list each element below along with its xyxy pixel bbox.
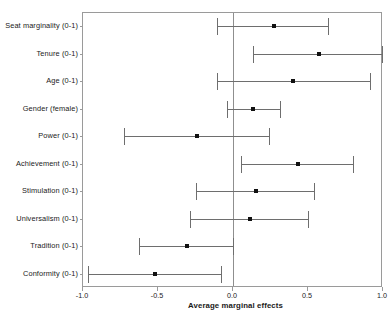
confidence-interval-upper-cap [221,266,222,283]
confidence-interval-upper-cap [233,238,234,255]
confidence-interval-upper-cap [328,18,329,35]
estimate-row [83,178,381,205]
y-axis-label-power-0-1: Power (0-1) [0,131,78,140]
confidence-interval-lower-cap [241,156,242,173]
y-axis-label-gender-female: Gender (female) [0,104,78,113]
y-axis-label-achievement-0-1: Achievement (0-1) [0,159,78,168]
estimate-row [83,123,381,150]
estimate-point [153,272,157,276]
estimate-row [83,68,381,95]
y-axis-label-conformity-0-1: Conformity (0-1) [0,269,78,278]
y-axis-label-universalism-0-1: Universalism (0-1) [0,214,78,223]
y-axis-tick [80,191,83,192]
confidence-interval-upper-cap [353,156,354,173]
estimate-point [251,107,255,111]
plot-inner [83,13,381,286]
chart-figure: Seat marginality (0-1)Tenure (0-1)Age (0… [0,0,391,315]
x-axis-tick-label: 1.0 [377,291,387,300]
confidence-interval-lower-cap [124,128,125,145]
y-axis-label-tradition-0-1: Tradition (0-1) [0,241,78,250]
confidence-interval-upper-cap [308,211,309,228]
confidence-interval-lower-cap [196,183,197,200]
confidence-interval-upper-cap [370,73,371,90]
x-axis-tick-label: -0.5 [151,291,163,300]
estimate-point [195,134,199,138]
y-axis-tick [80,219,83,220]
estimate-row [83,261,381,288]
estimate-point [317,52,321,56]
x-axis-title-text: Average marginal effects [188,301,283,310]
estimate-row [83,151,381,178]
confidence-interval-upper-cap [314,183,315,200]
estimate-row [83,41,381,68]
y-axis-tick [80,81,83,82]
estimate-point [272,24,276,28]
y-axis-tick [80,246,83,247]
estimate-row [83,96,381,123]
y-axis-label-tenure-0-1: Tenure (0-1) [0,49,78,58]
estimate-point [296,162,300,166]
y-axis-tick [80,109,83,110]
confidence-interval-upper-cap [382,46,383,63]
estimate-row [83,206,381,233]
y-axis-tick [80,274,83,275]
confidence-interval-lower-cap [217,73,218,90]
confidence-interval-lower-cap [227,101,228,118]
confidence-interval-lower-cap [217,18,218,35]
confidence-interval-lower-cap [253,46,254,63]
x-axis-title: Average marginal effects [0,301,391,310]
plot-area [82,12,382,287]
confidence-interval-lower-cap [190,211,191,228]
confidence-interval-lower-cap [88,266,89,283]
y-axis-label-seat-marginality-0-1: Seat marginality (0-1) [0,21,78,30]
x-axis-tick-label: 0.0 [227,291,237,300]
estimate-row [83,233,381,260]
y-axis-tick [80,26,83,27]
y-axis-tick [80,54,83,55]
y-axis-tick [80,136,83,137]
y-axis-label-age-0-1: Age (0-1) [0,76,78,85]
estimate-point [291,79,295,83]
x-axis-tick-label: -1.0 [76,291,88,300]
estimate-point [185,244,189,248]
confidence-interval-upper-cap [269,128,270,145]
estimate-row [83,13,381,40]
y-axis-label-stimulation-0-1: Stimulation (0-1) [0,186,78,195]
y-axis-tick [80,164,83,165]
estimate-point [248,217,252,221]
confidence-interval-lower-cap [139,238,140,255]
x-axis-tick-label: 0.5 [302,291,312,300]
confidence-interval-upper-cap [280,101,281,118]
estimate-point [254,189,258,193]
